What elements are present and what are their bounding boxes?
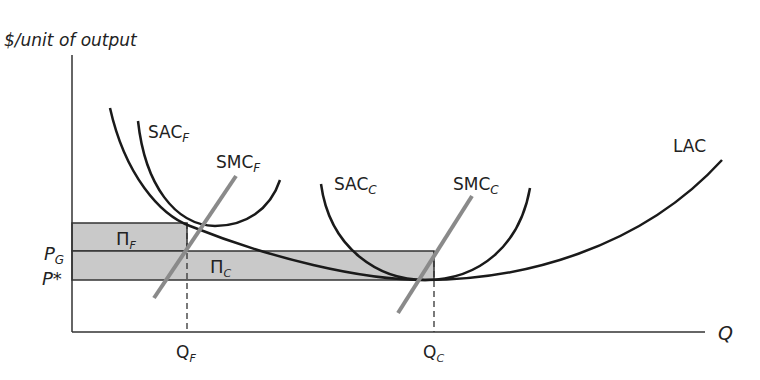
cost-curves-diagram: $/unit of output Q LAC SACF SMCF SACC SM… [0, 0, 760, 380]
p-g-label: PG [44, 243, 64, 267]
p-star-label: P* [42, 268, 62, 289]
sac-c-label: SACC [334, 174, 377, 197]
smc-f-label: SMCF [216, 152, 261, 175]
x-axis-label: Q [718, 322, 733, 344]
lac-label: LAC [673, 136, 706, 156]
smc-c-label: SMCC [453, 174, 499, 197]
sac-f-label: SACF [148, 122, 190, 145]
y-axis-label: $/unit of output [4, 30, 138, 50]
q-f-label: QF [176, 342, 196, 365]
q-c-label: QC [423, 342, 444, 365]
profit-area-c [72, 251, 434, 280]
